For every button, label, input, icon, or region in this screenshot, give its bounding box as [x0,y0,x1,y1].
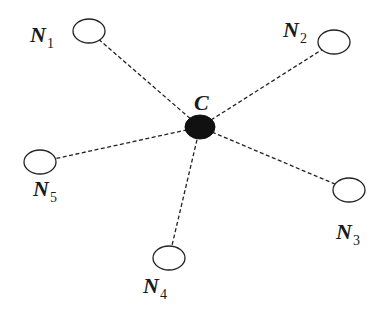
node-circle [24,150,56,174]
node-label-subscript: 3 [353,233,360,248]
center-node-label: C [194,90,209,115]
node-circle [153,246,185,270]
edges-group [40,31,349,258]
node-n4: N4 [142,246,185,302]
node-label-subscript: 2 [300,31,307,46]
nodes-group: N1N2N3N4N5 [24,17,365,302]
node-n1: N1 [29,19,105,51]
node-label: N3 [335,219,360,248]
star-diagram: N1N2N3N4N5 C [0,0,386,317]
edge-c-n5 [40,127,200,162]
node-label-subscript: 1 [47,36,54,51]
node-label: N2 [282,17,307,46]
center-node-circle [185,115,215,139]
edge-c-n2 [200,42,334,127]
node-label-subscript: 4 [160,287,167,302]
edge-c-n1 [89,31,200,127]
node-label-subscript: 5 [50,190,57,205]
node-circle [73,19,105,43]
edge-c-n3 [200,127,349,190]
node-label-base: N [335,219,353,244]
node-label-base: N [29,22,47,47]
center-node-group: C [185,90,215,139]
node-label: N4 [142,273,167,302]
node-label-base: N [142,273,160,298]
node-n3: N3 [333,178,365,248]
edge-c-n4 [169,127,200,258]
node-circle [333,178,365,202]
node-n5: N5 [24,150,57,205]
node-label-base: N [32,176,50,201]
node-circle [318,30,350,54]
node-label: N1 [29,22,54,51]
node-n2: N2 [282,17,350,54]
node-label-base: N [282,17,300,42]
node-label: N5 [32,176,57,205]
